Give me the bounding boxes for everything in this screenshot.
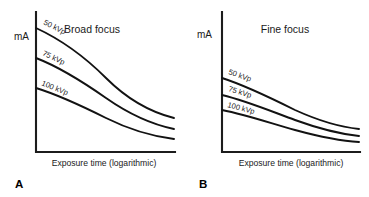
curve-label-75-kvp-a: 75 kVp	[41, 49, 66, 67]
panel-fine-focus: mA Fine focus Exposure time (logarithmic…	[185, 0, 369, 197]
x-axis-label-b: Exposure time (logarithmic)	[239, 158, 344, 168]
panel-title-b: Fine focus	[261, 23, 309, 35]
panel-broad-focus: mA Broad focus Exposure time (logarithmi…	[0, 0, 184, 197]
x-axis-label-a: Exposure time (logarithmic)	[52, 158, 157, 168]
y-axis-label-b: mA	[197, 29, 212, 40]
panel-letter-a: A	[15, 178, 23, 190]
panel-b-plot: mA Fine focus Exposure time (logarithmic…	[185, 0, 369, 197]
curve-50-kvp-a	[36, 28, 174, 118]
panel-a-plot: mA Broad focus Exposure time (logarithmi…	[0, 0, 184, 197]
figure-container: mA Broad focus Exposure time (logarithmi…	[0, 0, 369, 197]
panel-letter-b: B	[199, 178, 207, 190]
panel-title-a: Broad focus	[64, 23, 120, 35]
y-axis-label-a: mA	[14, 31, 29, 42]
curve-100-kvp-a	[36, 88, 174, 139]
